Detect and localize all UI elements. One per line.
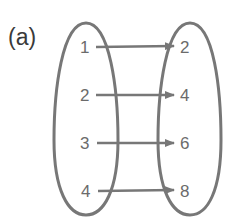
mapping-diagram: (a) 1 2 3 4 2 4 6 8 — [0, 0, 225, 222]
arrow-4-to-8 — [98, 190, 174, 191]
domain-value-3: 3 — [80, 134, 89, 153]
arrow-1-to-2 — [96, 46, 174, 47]
range-value-2: 2 — [180, 38, 189, 57]
range-value-4: 4 — [180, 86, 189, 105]
domain-value-4: 4 — [81, 182, 90, 201]
range-value-8: 8 — [180, 182, 189, 201]
range-value-6: 6 — [180, 134, 189, 153]
domain-value-2: 2 — [80, 86, 89, 105]
figure-label: (a) — [8, 24, 36, 51]
domain-value-1: 1 — [80, 38, 89, 57]
range-set-oval — [158, 23, 221, 215]
